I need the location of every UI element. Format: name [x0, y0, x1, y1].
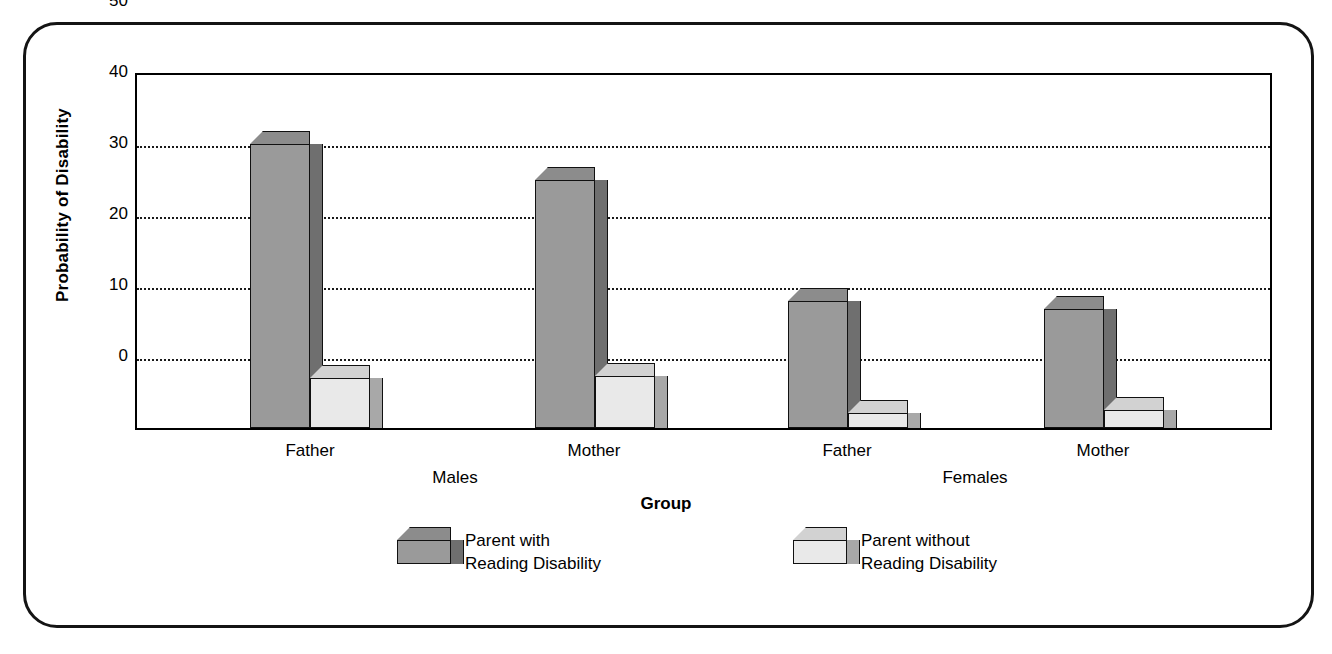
- legend-swatch-without-disability-icon: [793, 540, 847, 564]
- bar-front-face: [848, 413, 908, 428]
- bar-front-face: [1044, 309, 1104, 428]
- bar-side-face: [908, 413, 921, 428]
- bar-side-face: [1164, 410, 1177, 428]
- legend-label-line1: Parent without: [861, 530, 997, 553]
- y-axis-tick-labels: 50 40 30 20 10 0: [80, 0, 128, 357]
- legend-swatch-with-disability-icon: [397, 540, 451, 564]
- y-axis-title: Probability of Disability: [53, 80, 73, 330]
- bar-front-face: [250, 144, 310, 428]
- legend-swatch-front-face: [397, 540, 451, 564]
- bar-females-father-with-disability[interactable]: [788, 301, 848, 428]
- x-group-label-males: Males: [432, 468, 477, 488]
- legend-label-with-disability: Parent with Reading Disability: [465, 530, 601, 576]
- bar-males-mother-with-disability[interactable]: [535, 180, 595, 428]
- bar-top-face: [1044, 296, 1104, 309]
- bar-top-face: [250, 131, 310, 144]
- bar-side-face: [370, 378, 383, 428]
- plot-area: [135, 73, 1272, 430]
- bar-females-father-without-disability[interactable]: [848, 413, 908, 428]
- legend-label-without-disability: Parent without Reading Disability: [861, 530, 997, 576]
- legend-item-parent-without-disability[interactable]: Parent without Reading Disability: [793, 530, 997, 576]
- y-tick-label-10: 10: [88, 276, 128, 293]
- bar-top-face: [535, 167, 595, 180]
- bar-front-face: [310, 378, 370, 428]
- bar-front-face: [595, 376, 655, 428]
- x-category-label-females-father: Father: [822, 441, 871, 461]
- y-tick-label-30: 30: [88, 134, 128, 151]
- legend-label-line2: Reading Disability: [861, 553, 997, 576]
- x-axis-title: Group: [641, 494, 692, 514]
- figure-root: Probability of Disability 50 40 30 20 10…: [0, 0, 1332, 654]
- x-category-label-males-mother: Mother: [568, 441, 621, 461]
- bar-front-face: [1104, 410, 1164, 428]
- y-tick-label-20: 20: [88, 205, 128, 222]
- x-group-label-females: Females: [942, 468, 1007, 488]
- legend-swatch-front-face: [793, 540, 847, 564]
- bar-females-mother-with-disability[interactable]: [1044, 309, 1104, 428]
- legend-item-parent-with-disability[interactable]: Parent with Reading Disability: [397, 530, 601, 576]
- bar-front-face: [788, 301, 848, 428]
- x-category-label-males-father: Father: [285, 441, 334, 461]
- legend-label-line1: Parent with: [465, 530, 601, 553]
- bar-males-mother-without-disability[interactable]: [595, 376, 655, 428]
- legend-swatch-side-face: [847, 540, 860, 564]
- y-tick-label-40: 40: [88, 63, 128, 80]
- bar-males-father-without-disability[interactable]: [310, 378, 370, 428]
- bar-front-face: [535, 180, 595, 428]
- bar-females-mother-without-disability[interactable]: [1104, 410, 1164, 428]
- y-tick-label-50: 50: [88, 0, 128, 9]
- bar-side-face: [655, 376, 668, 428]
- y-tick-label-0: 0: [88, 347, 128, 364]
- legend-label-line2: Reading Disability: [465, 553, 601, 576]
- bar-males-father-with-disability[interactable]: [250, 144, 310, 428]
- x-category-label-females-mother: Mother: [1077, 441, 1130, 461]
- legend-swatch-side-face: [451, 540, 464, 564]
